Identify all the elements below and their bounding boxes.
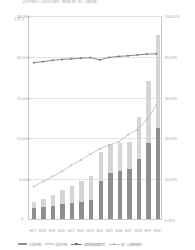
line-series-marker: [146, 53, 148, 55]
line-series-marker: [61, 170, 63, 172]
legend-label: 認定件数: [55, 242, 67, 247]
x-axis-tick-label: H28: [133, 229, 143, 233]
x-axis-tick-label: H19: [47, 229, 57, 233]
x-axis-tick-label: H17: [28, 229, 38, 233]
legend-marker-icon: [75, 243, 78, 246]
plot-area: [28, 16, 162, 220]
y-axis-left-tick-label: 5,000: [6, 177, 30, 182]
line-series-marker: [61, 59, 63, 61]
y-axis-left-tick-label: 20,000: [6, 55, 30, 60]
line-series-marker: [155, 53, 157, 55]
x-axis-tick-label: H27: [124, 229, 134, 233]
line-series-marker: [99, 59, 101, 61]
y-axis-right-tick-label: 100.0%: [165, 14, 193, 19]
legend-label: 脳・心臓疾患率: [121, 242, 142, 247]
x-axis-tick-label: H21: [66, 229, 76, 233]
line-series-marker: [42, 61, 44, 63]
y-axis-right-tick-label: 40.0%: [165, 136, 193, 141]
line-series-marker: [33, 186, 35, 188]
legend-swatch-bar-icon: [18, 243, 27, 246]
legend-item[interactable]: 請求件数: [18, 242, 41, 247]
y-axis-left-tick-label: 15,000: [6, 96, 30, 101]
x-axis-tick-label: H29: [143, 229, 153, 233]
legend-item[interactable]: 精神障害事案率: [71, 242, 105, 247]
line-series-marker: [118, 141, 120, 143]
line-series-marker: [127, 134, 129, 136]
x-axis-tick-label: H24: [95, 229, 105, 233]
x-axis-tick-label: H30: [152, 229, 162, 233]
y-axis-right-tick-label: 80.0%: [165, 55, 193, 60]
x-axis-tick-label: H20: [57, 229, 67, 233]
legend-swatch-line-icon: [109, 243, 120, 246]
line-series-marker: [80, 57, 82, 59]
legend-item[interactable]: 認定件数: [45, 242, 68, 247]
line-series-path: [34, 105, 157, 186]
line-series-marker: [137, 54, 139, 56]
y-axis-left-tick-label: 25,000: [6, 14, 30, 19]
line-series-marker: [108, 57, 110, 59]
line-series-marker: [127, 55, 129, 57]
line-series-layer: [29, 16, 161, 219]
line-series-marker: [146, 119, 148, 121]
x-axis-ticks: H17H18H19H20H21H22H23H24H25H26H27H28H29H…: [28, 229, 162, 237]
x-axis-tick-label: H18: [38, 229, 48, 233]
line-series-marker: [52, 59, 54, 61]
line-series-marker: [99, 148, 101, 150]
line-series-marker: [137, 129, 139, 131]
x-axis-tick-label: H25: [105, 229, 115, 233]
line-series-marker: [108, 144, 110, 146]
line-series-marker: [89, 153, 91, 155]
y-axis-right-tick-label: 0.0%: [165, 218, 193, 223]
legend-marker-icon: [113, 243, 116, 246]
chart-title: 認定件数及び認定率の推移（精神障害・脳・心臓疾患）: [22, 0, 172, 4]
y-axis-right-tick-label: 60.0%: [165, 96, 193, 101]
chart-legend: 請求件数認定件数精神障害事案率脳・心臓疾患率: [18, 240, 190, 248]
line-series-marker: [52, 175, 54, 177]
legend-swatch-line-icon: [71, 243, 82, 246]
legend-label: 精神障害事案率: [84, 242, 105, 247]
legend-label: 請求件数: [29, 242, 41, 247]
y-axis-left-tick-label: 0: [21, 216, 23, 221]
x-axis-tick-label: H23: [85, 229, 95, 233]
line-series-marker: [155, 104, 157, 106]
legend-item[interactable]: 脳・心臓疾患率: [109, 242, 143, 247]
x-axis-tick-label: H22: [76, 229, 86, 233]
line-series-marker: [71, 164, 73, 166]
line-series-marker: [42, 181, 44, 183]
line-series-marker: [33, 62, 35, 64]
line-series-marker: [71, 58, 73, 60]
y-axis-left-tick-label: 10,000: [6, 136, 30, 141]
chart-container: 認定件数及び認定率の推移（精神障害・脳・心臓疾患） （人） 5,00010,00…: [0, 0, 195, 250]
legend-swatch-bar-icon: [45, 243, 54, 246]
y-axis-right-tick-label: 20.0%: [165, 177, 193, 182]
line-series-marker: [118, 56, 120, 58]
line-series-marker: [80, 159, 82, 161]
x-axis-tick-label: H26: [114, 229, 124, 233]
line-series-marker: [89, 57, 91, 59]
